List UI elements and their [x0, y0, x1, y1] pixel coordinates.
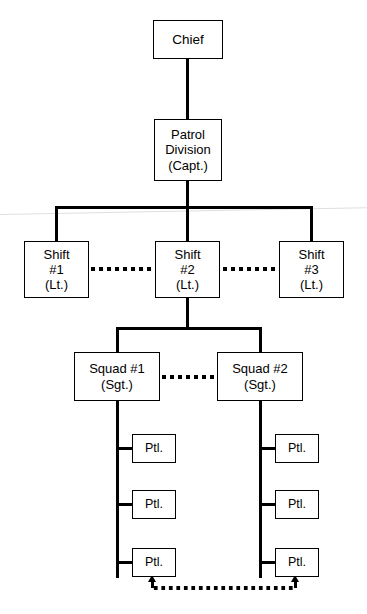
- node-chief-label: Chief: [172, 32, 204, 48]
- connector-shift2-stem: [186, 297, 189, 330]
- node-squad-2-line2: (Sgt.): [244, 377, 276, 392]
- connector-drop-shift-1: [55, 206, 58, 243]
- dotted-link-shift1-shift2: [89, 267, 154, 271]
- node-ptl-left-1-label: Ptl.: [145, 441, 163, 456]
- connector-branch-right-ptl-3: [259, 561, 277, 564]
- node-squad-2-line1: Squad #2: [232, 361, 288, 376]
- node-ptl-right-1[interactable]: Ptl.: [275, 434, 319, 463]
- node-shift-1-line3: (Lt.): [45, 277, 68, 292]
- node-ptl-left-3-label: Ptl.: [145, 555, 163, 570]
- node-ptl-left-1[interactable]: Ptl.: [132, 434, 176, 463]
- connector-squad2-trunk: [259, 400, 262, 578]
- connector-shift-distribution-bar: [55, 206, 313, 209]
- connector-branch-right-ptl-1: [259, 447, 277, 450]
- connector-squad1-trunk: [116, 400, 119, 578]
- dotted-link-shift2-shift3: [221, 267, 278, 271]
- connector-drop-squad-2: [259, 327, 262, 354]
- node-chief[interactable]: Chief: [153, 20, 223, 59]
- dotted-link-squad1-squad2: [160, 375, 217, 379]
- connector-chief-to-division: [186, 57, 189, 120]
- node-ptl-right-1-label: Ptl.: [288, 441, 306, 456]
- node-ptl-left-3[interactable]: Ptl.: [132, 548, 176, 577]
- node-ptl-right-2-label: Ptl.: [288, 497, 306, 512]
- org-chart-canvas: Chief Patrol Division (Capt.) Shift #1 (…: [0, 0, 367, 614]
- node-ptl-right-3-label: Ptl.: [288, 555, 306, 570]
- node-squad-2[interactable]: Squad #2 (Sgt.): [217, 352, 303, 401]
- dotted-link-ptl-left3-ptl-right3: [152, 586, 295, 590]
- connector-division-stem: [186, 179, 189, 209]
- node-division-line3: (Capt.): [168, 158, 208, 173]
- connector-squad-distribution-bar: [116, 327, 262, 330]
- connector-branch-right-ptl-2: [259, 503, 277, 506]
- node-ptl-left-2-label: Ptl.: [145, 497, 163, 512]
- node-ptl-left-2[interactable]: Ptl.: [132, 490, 176, 519]
- node-division-line2: Division: [165, 142, 211, 157]
- node-squad-1[interactable]: Squad #1 (Sgt.): [74, 352, 160, 401]
- connector-drop-squad-1: [116, 327, 119, 354]
- node-shift-1-line1: Shift: [43, 247, 69, 262]
- node-shift-1[interactable]: Shift #1 (Lt.): [24, 241, 89, 298]
- node-shift-3-line1: Shift: [298, 247, 324, 262]
- connector-drop-shift-2: [186, 206, 189, 243]
- node-shift-2-line2: #2: [180, 262, 194, 277]
- node-shift-3[interactable]: Shift #3 (Lt.): [279, 241, 344, 298]
- node-ptl-right-3[interactable]: Ptl.: [275, 548, 319, 577]
- node-shift-2[interactable]: Shift #2 (Lt.): [155, 241, 220, 298]
- node-ptl-right-2[interactable]: Ptl.: [275, 490, 319, 519]
- node-shift-3-line3: (Lt.): [300, 277, 323, 292]
- node-squad-1-line2: (Sgt.): [101, 377, 133, 392]
- node-squad-1-line1: Squad #1: [89, 361, 145, 376]
- connector-drop-shift-3: [310, 206, 313, 243]
- node-division-line1: Patrol: [171, 127, 205, 142]
- node-shift-2-line1: Shift: [174, 247, 200, 262]
- node-shift-2-line3: (Lt.): [176, 277, 199, 292]
- node-shift-3-line2: #3: [304, 262, 318, 277]
- node-shift-1-line2: #1: [49, 262, 63, 277]
- node-patrol-division[interactable]: Patrol Division (Capt.): [154, 119, 222, 181]
